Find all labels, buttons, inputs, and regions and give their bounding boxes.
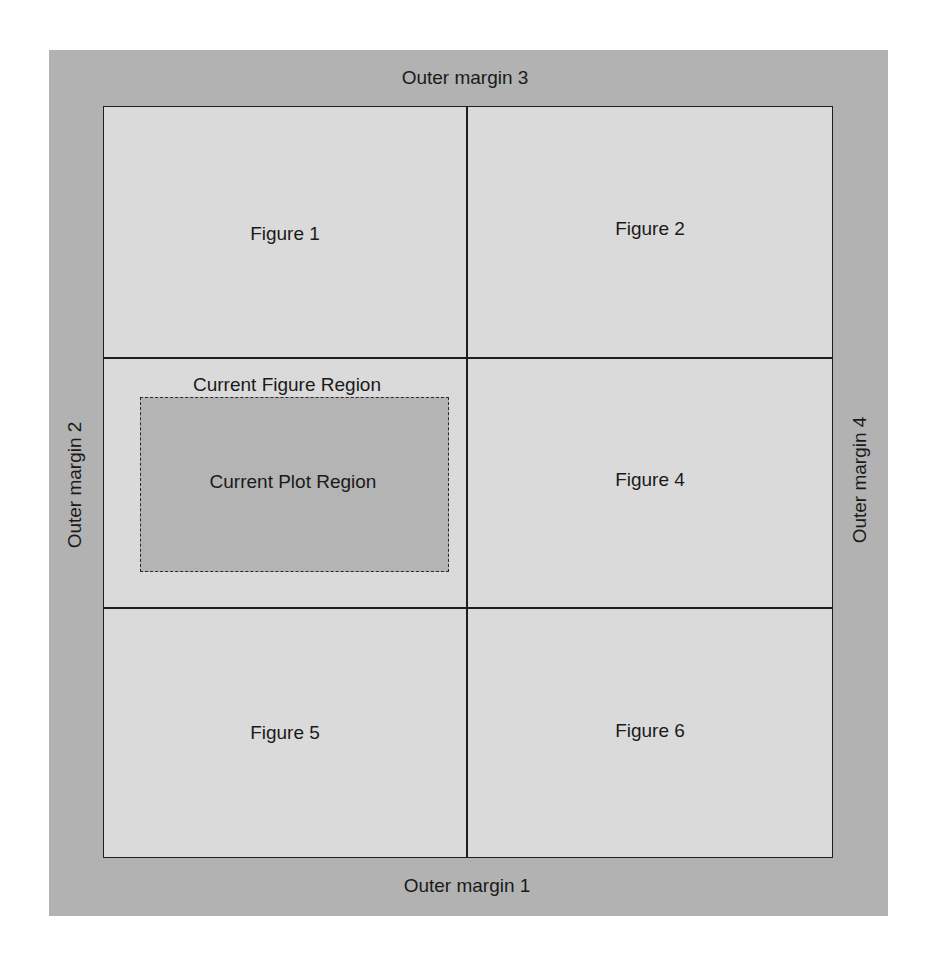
- grid-divider-vertical: [466, 106, 468, 858]
- figure-6-label: Figure 6: [615, 720, 685, 742]
- outer-margin-1-label: Outer margin 1: [404, 875, 531, 897]
- grid-divider-horizontal-2: [103, 607, 833, 609]
- outer-margin-4-label: Outer margin 4: [849, 417, 871, 544]
- outer-margin-3-label: Outer margin 3: [402, 67, 529, 89]
- figure-2-label: Figure 2: [615, 218, 685, 240]
- outer-margin-2-label: Outer margin 2: [64, 422, 86, 549]
- current-figure-region-label: Current Figure Region: [193, 374, 381, 396]
- figure-4-label: Figure 4: [615, 469, 685, 491]
- current-plot-region-label: Current Plot Region: [210, 471, 377, 493]
- grid-divider-horizontal-1: [103, 357, 833, 359]
- figure-5-label: Figure 5: [250, 722, 320, 744]
- figure-1-label: Figure 1: [250, 223, 320, 245]
